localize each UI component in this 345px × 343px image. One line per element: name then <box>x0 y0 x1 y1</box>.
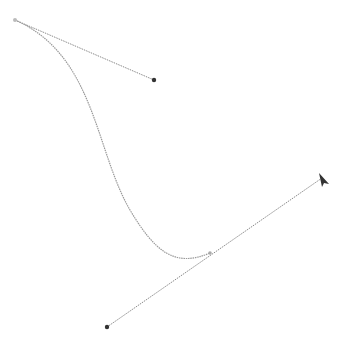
arrow-cursor-icon <box>319 173 329 187</box>
drawing-canvas[interactable] <box>0 0 345 343</box>
bezier-curve[interactable] <box>15 20 210 259</box>
end-handle-line <box>107 178 322 327</box>
end-anchor-point[interactable] <box>208 251 212 255</box>
end-handle-in-point[interactable] <box>105 325 109 329</box>
start-anchor-point[interactable] <box>13 18 17 22</box>
start-handle-line <box>15 20 154 80</box>
start-handle-point[interactable] <box>152 78 156 82</box>
